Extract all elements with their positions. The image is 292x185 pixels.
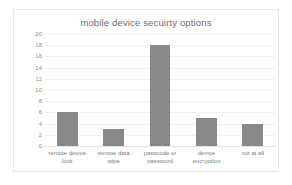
x-axis: remote devicelockremote datawipepasscode… (44, 149, 276, 173)
y-axis-tick-label: 4 (39, 121, 42, 127)
y-axis-tick-label: 8 (39, 98, 42, 104)
y-axis: 20181614121086420 (18, 34, 42, 146)
x-axis-tick-label-line: encryption (183, 157, 229, 165)
x-axis-tick-label-line: remote data (90, 149, 136, 157)
y-axis-tick-label: 20 (35, 31, 42, 37)
bar (196, 118, 217, 146)
x-axis-tick-label: passcode orpassword (137, 149, 183, 165)
y-axis-tick-label: 0 (39, 143, 42, 149)
x-axis-tick-label-line: remote device (44, 149, 90, 157)
y-axis-tick-label: 16 (35, 53, 42, 59)
x-axis-tick-label: remote devicelock (44, 149, 90, 165)
x-axis-tick-label-line: password (137, 157, 183, 165)
y-axis-tick-label: 10 (35, 87, 42, 93)
y-axis-tick-label: 6 (39, 109, 42, 115)
y-axis-tick-label: 2 (39, 132, 42, 138)
y-axis-tick-label: 18 (35, 42, 42, 48)
bar (242, 124, 263, 146)
x-axis-tick-label-line: passcode or (137, 149, 183, 157)
plot-area (44, 34, 276, 146)
x-axis-tick-label-line: not at all (230, 149, 276, 157)
x-axis-tick-label-line: device (183, 149, 229, 157)
chart-title: mobile device secuirty options (14, 17, 278, 28)
x-axis-tick-label: deviceencryption (183, 149, 229, 165)
bar (103, 129, 124, 146)
bar (150, 45, 171, 146)
bar-series (44, 34, 276, 146)
x-axis-tick-label-line: lock (44, 157, 90, 165)
x-axis-tick-label-line: wipe (90, 157, 136, 165)
x-axis-tick-label: remote datawipe (90, 149, 136, 165)
bar (57, 112, 78, 146)
chart-card: mobile device secuirty options 201816141… (13, 9, 279, 172)
y-axis-tick-label: 12 (35, 76, 42, 82)
y-axis-tick-label: 14 (35, 65, 42, 71)
x-axis-tick-label: not at all (230, 149, 276, 157)
gridline (44, 146, 276, 147)
